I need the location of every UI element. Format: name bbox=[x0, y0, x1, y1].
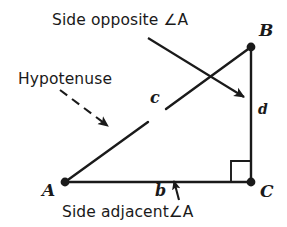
geometry-figure: Side opposite ∠A Hypotenuse Side adjacen… bbox=[0, 0, 287, 227]
vertex-dot-a bbox=[61, 178, 70, 187]
hypotenuse-segment-lower bbox=[65, 122, 148, 182]
hypotenuse-label: Hypotenuse bbox=[18, 72, 112, 88]
side-label-c: c bbox=[150, 90, 160, 106]
vertex-label-b: B bbox=[259, 22, 273, 39]
vertex-label-c: C bbox=[260, 183, 274, 200]
side-adjacent-callout-arrow bbox=[174, 181, 179, 200]
side-opposite-label: Side opposite ∠A bbox=[52, 13, 188, 29]
side-adjacent-label: Side adjacent∠A bbox=[62, 205, 194, 221]
side-label-b: b bbox=[155, 183, 166, 199]
triangle-outline bbox=[65, 47, 251, 182]
vertex-dot-b bbox=[247, 43, 256, 52]
hypotenuse-callout-arrow bbox=[60, 90, 108, 126]
vertex-dot-c bbox=[247, 178, 256, 187]
side-label-d: d bbox=[258, 102, 268, 116]
vertex-label-a: A bbox=[42, 182, 55, 199]
